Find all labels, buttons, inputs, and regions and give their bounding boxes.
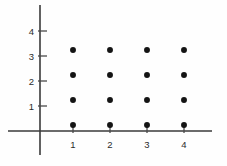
data-point <box>70 72 76 78</box>
y-tick-label-2: 2 <box>29 76 34 87</box>
data-point <box>107 122 113 128</box>
data-point <box>181 72 187 78</box>
data-point <box>144 47 150 53</box>
data-points-group <box>70 47 187 128</box>
data-point <box>181 97 187 103</box>
data-point <box>70 122 76 128</box>
x-tick-label-4: 4 <box>181 139 186 150</box>
data-point <box>107 47 113 53</box>
x-tick-label-2: 2 <box>107 139 112 150</box>
x-tick-label-3: 3 <box>144 139 149 150</box>
lattice-scatter-figure: 4 3 2 1 1 2 3 4 <box>0 0 227 166</box>
data-point <box>144 97 150 103</box>
data-point <box>107 72 113 78</box>
data-point <box>181 47 187 53</box>
x-tick-label-1: 1 <box>70 139 75 150</box>
data-point <box>107 97 113 103</box>
data-point <box>181 122 187 128</box>
data-point <box>70 47 76 53</box>
y-tick-label-4: 4 <box>29 26 34 37</box>
y-tick-label-1: 1 <box>29 101 34 112</box>
data-point <box>144 72 150 78</box>
y-tick-label-3: 3 <box>29 51 34 62</box>
data-point <box>70 97 76 103</box>
plot-canvas: 4 3 2 1 1 2 3 4 <box>0 0 227 166</box>
data-point <box>144 122 150 128</box>
